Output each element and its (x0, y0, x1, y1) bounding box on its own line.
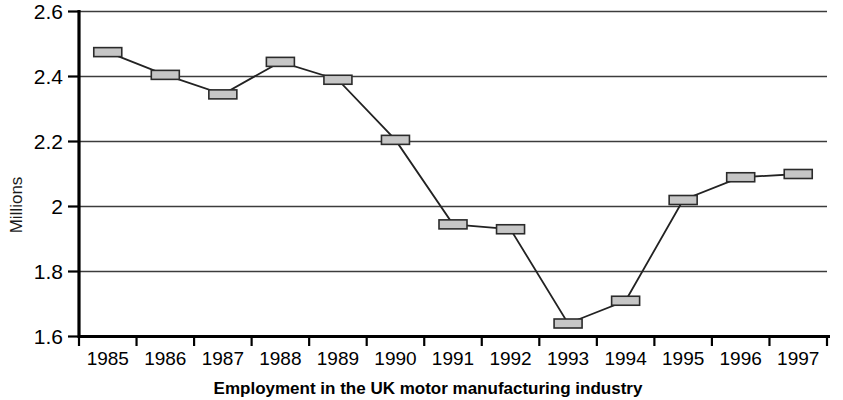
line-chart: 2.62.42.221.81.6 19851986198719881989199… (0, 0, 843, 400)
x-tick-label: 1989 (317, 348, 359, 369)
y-tick-label: 2 (51, 195, 63, 218)
data-point-marker (381, 135, 409, 144)
x-tick-label: 1988 (259, 348, 301, 369)
y-tick-label: 2.6 (34, 0, 63, 23)
data-point-marker (209, 90, 237, 99)
y-axis-label: Millions (7, 177, 26, 234)
data-point-marker (612, 296, 640, 305)
data-point-marker (324, 75, 352, 84)
x-tick-label: 1992 (489, 348, 531, 369)
x-tick-label: 1996 (720, 348, 762, 369)
x-tick-label: 1990 (374, 348, 416, 369)
x-tick-label: 1987 (202, 348, 244, 369)
chart-caption: Employment in the UK motor manufacturing… (214, 379, 643, 398)
data-point-marker (439, 220, 467, 229)
data-point-marker (266, 57, 294, 66)
x-tick-label: 1994 (604, 348, 647, 369)
data-point-marker (669, 196, 697, 205)
x-tick-label: 1997 (777, 348, 819, 369)
data-point-marker (94, 48, 122, 57)
data-point-marker (554, 319, 582, 328)
y-tick-label: 1.6 (34, 325, 63, 348)
data-point-marker (151, 70, 179, 79)
y-tick-label: 1.8 (34, 260, 63, 283)
x-tick-label: 1993 (547, 348, 589, 369)
data-point-marker (784, 170, 812, 179)
x-tick-label: 1995 (662, 348, 704, 369)
data-point-marker (727, 173, 755, 182)
data-point-marker (497, 225, 525, 234)
y-tick-label: 2.2 (34, 130, 63, 153)
y-tick-label: 2.4 (34, 65, 64, 88)
x-tick-label: 1991 (432, 348, 474, 369)
chart-figure: 2.62.42.221.81.6 19851986198719881989199… (0, 0, 843, 400)
x-tick-label: 1986 (144, 348, 186, 369)
x-tick-label: 1985 (87, 348, 129, 369)
